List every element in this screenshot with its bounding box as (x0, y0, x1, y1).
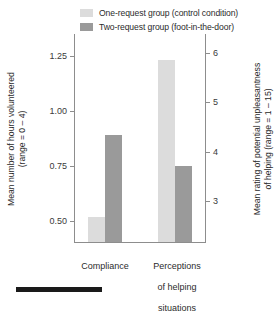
x-tick-label-perceptions-line1: Perceptions (141, 261, 213, 272)
legend-label-two-request: Two-request group (foot-in-the-door) (99, 22, 234, 32)
x-tick-label-compliance-line1: Compliance (71, 261, 139, 272)
left-tick-3 (70, 221, 74, 222)
right-axis-line (205, 34, 206, 243)
x-tick-label-compliance: Compliance (71, 250, 139, 282)
left-axis-title: Mean number of hours volunteered (range … (6, 64, 28, 214)
left-tick-label-1: 1.00 (49, 106, 67, 115)
legend-item-one-request: One-request group (control condition) (80, 7, 276, 19)
right-tick-label-1: 5 (213, 98, 218, 107)
bar-one-request-group-0 (88, 217, 105, 242)
left-tick-2 (70, 166, 74, 167)
right-tick-3 (206, 201, 210, 202)
right-tick-0 (206, 53, 210, 54)
legend-label-one-request: One-request group (control condition) (99, 8, 238, 18)
right-axis-title-line1: Mean rating of potential unpleasantness (252, 56, 263, 221)
right-tick-label-0: 6 (213, 48, 218, 57)
left-tick-0 (70, 56, 74, 57)
left-tick-1 (70, 111, 74, 112)
x-tick-label-perceptions-line2: of helping (141, 282, 213, 293)
left-tick-label-2: 0.75 (49, 162, 67, 171)
x-tick-label-perceptions: Perceptions of helping situations (141, 250, 213, 315)
right-tick-label-2: 4 (213, 147, 218, 156)
bottom-rule-bar (16, 287, 102, 292)
chart-legend: One-request group (control condition) Tw… (80, 7, 276, 35)
legend-swatch-two-request (80, 23, 93, 31)
left-axis-title-line1: Mean number of hours volunteered (6, 64, 17, 214)
right-axis-title: Mean rating of potential unpleasantness … (252, 56, 274, 221)
bar-two-request-group-0 (105, 135, 122, 242)
bar-one-request-group-1 (158, 60, 175, 242)
left-tick-label-0: 1.25 (49, 51, 67, 60)
legend-item-two-request: Two-request group (foot-in-the-door) (80, 21, 276, 33)
plot-area: 1.251.000.750.50 6543 Mean number of hou… (74, 34, 206, 243)
left-axis-title-line2: (range = 0 – 4) (17, 64, 28, 214)
x-tick-label-perceptions-line3: situations (141, 303, 213, 314)
bar-two-request-group-1 (175, 166, 192, 242)
right-tick-label-3: 3 (213, 197, 218, 206)
x-axis-baseline (74, 242, 206, 243)
legend-swatch-one-request (80, 9, 93, 17)
left-axis-line (74, 34, 75, 243)
right-axis-title-line2: of helping (range = 1 – 15) (263, 56, 274, 221)
right-tick-1 (206, 102, 210, 103)
left-tick-label-3: 0.50 (49, 217, 67, 226)
right-tick-2 (206, 152, 210, 153)
